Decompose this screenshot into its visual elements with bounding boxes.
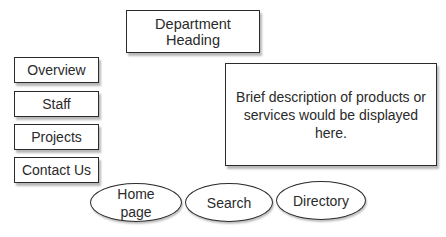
nav-projects[interactable]: Projects	[14, 124, 99, 150]
directory-label: Directory	[293, 192, 349, 210]
description-panel: Brief description of products or service…	[225, 63, 437, 166]
search-button[interactable]: Search	[185, 183, 273, 222]
page-title: Department Heading	[127, 16, 259, 48]
nav-overview[interactable]: Overview	[14, 57, 99, 83]
home-page-label: Home page	[111, 185, 161, 221]
search-label: Search	[207, 194, 251, 212]
nav-label: Contact Us	[22, 162, 91, 178]
nav-label: Staff	[42, 96, 71, 112]
nav-label: Overview	[27, 62, 85, 78]
directory-button[interactable]: Directory	[276, 181, 366, 220]
nav-label: Projects	[31, 129, 82, 145]
description-text: Brief description of products or service…	[236, 88, 426, 142]
nav-staff[interactable]: Staff	[14, 91, 99, 117]
nav-contact-us[interactable]: Contact Us	[14, 157, 99, 183]
department-heading: Department Heading	[126, 10, 260, 53]
home-page-button[interactable]: Home page	[90, 183, 182, 222]
